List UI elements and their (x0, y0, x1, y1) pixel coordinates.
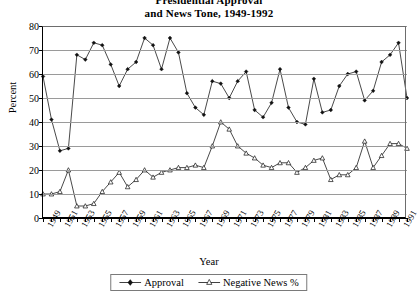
data-point-approval (92, 41, 96, 45)
x-axis-tick-mark (288, 218, 289, 222)
legend-item-approval[interactable]: Approval (119, 277, 184, 288)
data-point-approval (312, 77, 316, 81)
x-axis-tick-mark (229, 218, 230, 222)
x-axis-tick-mark (212, 218, 213, 222)
x-axis-tick-mark (85, 218, 86, 222)
y-axis-tick-label: 80 (29, 21, 39, 32)
data-point-approval (50, 118, 54, 122)
x-axis-tick-mark (399, 218, 400, 222)
y-axis-tick-mark (39, 74, 43, 75)
x-axis-tick-mark (331, 218, 332, 222)
data-point-approval (58, 149, 62, 153)
data-point-approval (354, 70, 358, 74)
data-point-approval (117, 84, 121, 88)
x-axis-tick-mark (255, 218, 256, 222)
x-axis-tick-mark (187, 218, 188, 222)
y-axis-tick-mark (39, 170, 43, 171)
legend-label-approval: Approval (144, 277, 184, 288)
x-axis-tick-mark (162, 218, 163, 222)
gridline (43, 50, 407, 51)
gridline (43, 98, 407, 99)
x-axis-tick-mark (322, 218, 323, 222)
y-axis-tick-mark (39, 98, 43, 99)
x-axis-tick-mark (297, 218, 298, 222)
data-point-negative-news (329, 177, 334, 181)
x-axis-tick-mark (204, 218, 205, 222)
x-axis-tick-mark (314, 218, 315, 222)
x-axis-tick-mark (390, 218, 391, 222)
gridline (43, 122, 407, 123)
x-axis-tick-mark (136, 218, 137, 222)
x-axis-tick-mark (272, 218, 273, 222)
data-point-approval (100, 43, 104, 47)
data-point-negative-news (362, 139, 367, 143)
chart-title: Presidential Approval and News Tone, 194… (0, 0, 418, 20)
x-axis-tick-mark (280, 218, 281, 222)
x-axis-tick-mark (178, 218, 179, 222)
data-point-negative-news (320, 156, 325, 160)
y-axis-tick-label: 10 (29, 189, 39, 200)
series-line-approval (43, 38, 407, 151)
data-point-negative-news (193, 163, 198, 167)
x-axis-tick-mark (94, 218, 95, 222)
legend-item-negative-news[interactable]: Negative News % (198, 277, 299, 288)
data-point-approval (287, 106, 291, 110)
x-axis-tick-mark (128, 218, 129, 222)
y-axis-tick-mark (39, 122, 43, 123)
x-axis-tick-mark (407, 218, 408, 222)
y-axis-tick-label: 60 (29, 69, 39, 80)
gridline (43, 170, 407, 171)
x-axis-tick-mark (111, 218, 112, 222)
y-axis-tick-label: 20 (29, 165, 39, 176)
x-axis-tick-mark (382, 218, 383, 222)
x-axis-label: Year (0, 256, 418, 267)
x-axis-tick-mark (305, 218, 306, 222)
x-axis-tick-mark (51, 218, 52, 222)
data-point-approval (168, 36, 172, 40)
data-point-approval (270, 101, 274, 105)
gridline (43, 146, 407, 147)
data-point-approval (41, 75, 45, 79)
y-axis-tick-mark (39, 26, 43, 27)
data-point-approval (320, 111, 324, 115)
y-axis-tick-mark (39, 194, 43, 195)
x-axis-tick-mark (246, 218, 247, 222)
data-point-approval (219, 82, 223, 86)
chart-legend: Approval Negative News % (110, 274, 307, 291)
chart-container: Presidential Approval and News Tone, 194… (0, 0, 418, 296)
data-point-approval (329, 108, 333, 112)
x-axis-tick-mark (263, 218, 264, 222)
data-point-approval (160, 67, 164, 71)
gridline (43, 194, 407, 195)
x-axis-tick-mark (170, 218, 171, 222)
data-point-approval (177, 51, 181, 55)
y-axis-tick-mark (39, 50, 43, 51)
data-point-approval (278, 67, 282, 71)
data-point-approval (66, 147, 70, 151)
y-axis-tick-label: 40 (29, 117, 39, 128)
x-axis-tick-mark (77, 218, 78, 222)
data-point-approval (75, 53, 79, 57)
legend-label-negative-news: Negative News % (223, 277, 299, 288)
data-point-approval (210, 79, 214, 83)
x-axis-tick-mark (60, 218, 61, 222)
x-axis-tick-mark (339, 218, 340, 222)
x-axis-tick-mark (348, 218, 349, 222)
x-axis-tick-mark (238, 218, 239, 222)
x-axis-tick-mark (68, 218, 69, 222)
y-axis-tick-label: 50 (29, 93, 39, 104)
x-axis-tick-mark (195, 218, 196, 222)
gridline (43, 26, 407, 27)
x-axis-tick-mark (221, 218, 222, 222)
legend-marker-filled-diamond-icon (119, 278, 141, 287)
data-point-negative-news (354, 165, 359, 169)
x-axis-tick-mark (43, 218, 44, 222)
data-point-approval (304, 123, 308, 127)
data-point-negative-news (58, 189, 63, 193)
y-axis-tick-label: 30 (29, 141, 39, 152)
gridline (43, 74, 407, 75)
x-axis-tick-mark (119, 218, 120, 222)
y-axis-tick-mark (39, 146, 43, 147)
x-axis-tick-mark (145, 218, 146, 222)
x-axis-tick-mark (365, 218, 366, 222)
